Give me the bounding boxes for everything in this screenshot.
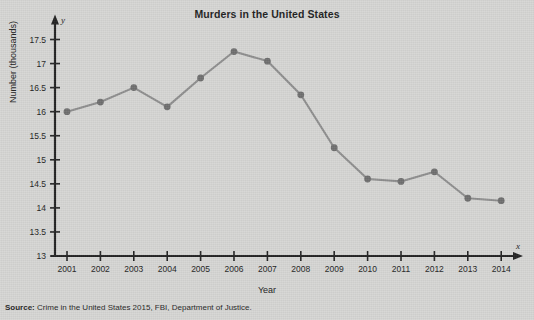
chart-figure: Murders in the United States Number (tho… [0,0,534,320]
data-point-marker [97,99,104,106]
y-tick-label: 15.5 [29,131,46,141]
x-axis-title: Year [0,285,534,295]
y-axis: y17.51716.51615.51514.51413.513 [29,15,65,262]
y-tick-label: 13.5 [29,227,46,237]
x-tick-label: 2010 [358,264,377,274]
x-tick-label: 2001 [58,264,77,274]
y-tick-label: 16 [37,107,47,117]
y-tick-label: 14 [37,203,47,213]
y-tick-label: 15 [37,155,47,165]
x-axis-arrow [513,252,523,260]
x-tick-label: 2009 [325,264,344,274]
data-point-marker [64,108,71,115]
y-tick-label: 13 [37,251,47,261]
y-tick-label: 17 [37,59,47,69]
data-point-marker [231,48,238,55]
data-point-marker [130,84,137,91]
data-point-marker [264,58,271,65]
x-tick-label: 2005 [191,264,210,274]
y-axis-arrow [51,15,59,25]
x-tick-label: 2012 [425,264,444,274]
data-point-marker [197,75,204,82]
y-tick-label: 17.5 [29,35,46,45]
y-tick-label: 16.5 [29,83,46,93]
x-tick-label: 2006 [225,264,244,274]
x-tick-label: 2013 [458,264,477,274]
line-chart-plot: y17.51716.51615.51514.51413.513 x2001200… [0,0,534,320]
x-tick-label: 2002 [91,264,110,274]
source-label: Source: [5,303,35,312]
source-text: Crime in the United States 2015, FBI, De… [35,303,252,312]
x-tick-label: 2003 [124,264,143,274]
data-series-murders [64,48,505,204]
x-axis-variable-label: x [515,241,520,251]
series-line [67,52,501,201]
data-point-marker [331,144,338,151]
x-tick-label: 2011 [392,264,411,274]
data-point-marker [464,195,471,202]
data-point-marker [164,103,171,110]
x-tick-label: 2014 [492,264,511,274]
data-point-marker [364,176,371,183]
source-note: Source: Crime in the United States 2015,… [5,303,252,312]
y-tick-label: 14.5 [29,179,46,189]
x-tick-label: 2007 [258,264,277,274]
data-point-marker [398,178,405,185]
y-axis-variable-label: y [60,15,65,25]
data-point-marker [297,91,304,98]
x-tick-label: 2008 [291,264,310,274]
x-tick-label: 2004 [158,264,177,274]
data-point-marker [431,168,438,175]
data-point-marker [498,197,505,204]
x-axis: x200120022003200420052006200720082009201… [51,241,523,274]
